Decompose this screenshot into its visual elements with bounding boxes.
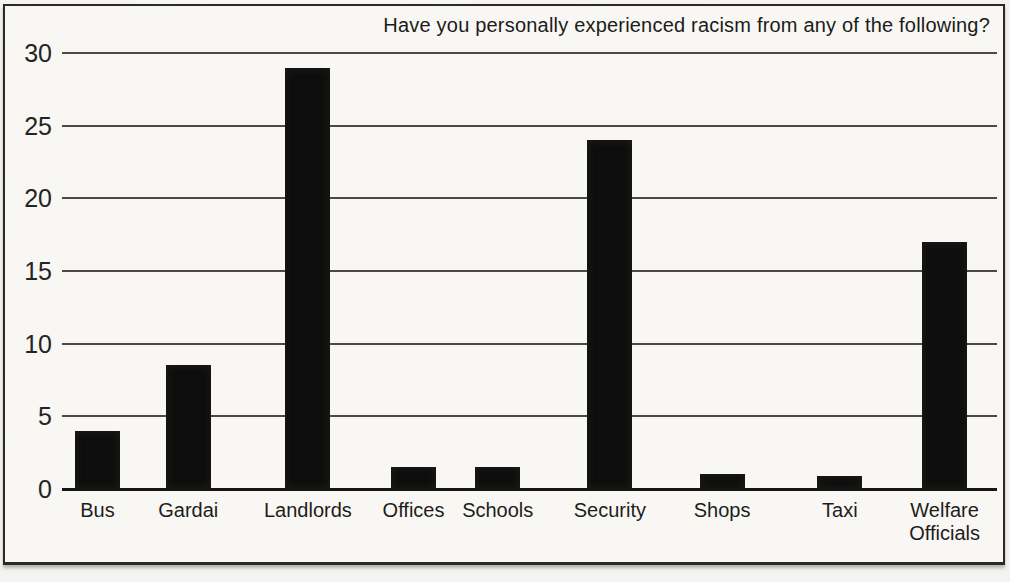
y-tick-label-25: 25 xyxy=(8,114,52,139)
gridline-20 xyxy=(62,197,997,199)
x-tick-label-welfare-officials: Welfare Officials xyxy=(909,499,980,545)
bar-landlords xyxy=(285,68,330,489)
x-tick-label-bus: Bus xyxy=(80,499,114,522)
x-tick-label-offices: Offices xyxy=(383,499,445,522)
x-tick-label-shops: Shops xyxy=(694,499,751,522)
y-tick-label-20: 20 xyxy=(8,186,52,211)
bar-offices xyxy=(391,467,436,489)
gridline-25 xyxy=(62,125,997,127)
y-tick-label-30: 30 xyxy=(8,41,52,66)
gridline-10 xyxy=(62,343,997,345)
x-tick-label-taxi: Taxi xyxy=(822,499,858,522)
y-tick-label-10: 10 xyxy=(8,332,52,357)
bar-bus xyxy=(75,431,120,489)
bar-gardai xyxy=(166,365,211,489)
y-tick-label-5: 5 xyxy=(8,404,52,429)
bar-taxi xyxy=(817,476,862,489)
bar-welfare-officials xyxy=(922,242,967,489)
y-tick-label-15: 15 xyxy=(8,259,52,284)
gridline-15 xyxy=(62,270,997,272)
bar-security xyxy=(587,140,632,489)
x-tick-label-gardai: Gardai xyxy=(158,499,218,522)
gridline-30 xyxy=(62,52,997,54)
y-tick-label-0: 0 xyxy=(8,477,52,502)
bar-shops xyxy=(700,474,745,489)
x-tick-label-security: Security xyxy=(574,499,646,522)
scanned-page: Have you personally experienced racism f… xyxy=(0,0,1010,582)
x-tick-label-landlords: Landlords xyxy=(264,499,352,522)
chart-frame: Have you personally experienced racism f… xyxy=(3,4,1005,565)
bar-schools xyxy=(475,467,520,489)
plot-area: 051015202530BusGardaiLandlordsOfficesSch… xyxy=(5,6,1003,562)
x-tick-label-schools: Schools xyxy=(462,499,533,522)
